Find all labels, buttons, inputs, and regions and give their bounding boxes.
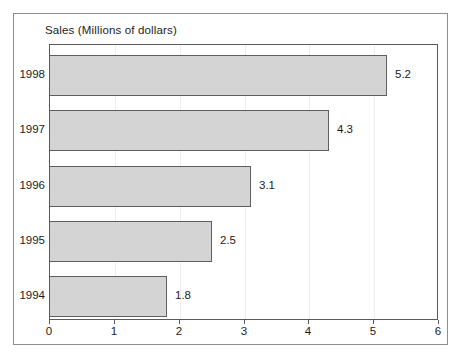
y-tick-label-1995: 1995 [5, 234, 45, 246]
y-tick-label-1998: 1998 [5, 68, 45, 80]
x-tick-mark-6 [438, 320, 439, 324]
bar-1995 [49, 221, 212, 262]
x-tick-label-1: 1 [111, 325, 117, 337]
chart-figure: Sales (Millions of dollars) 199819971996… [0, 0, 462, 364]
x-tick-mark-1 [114, 320, 115, 324]
x-tick-label-3: 3 [241, 325, 247, 337]
bar-1996 [49, 166, 251, 207]
chart-title: Sales (Millions of dollars) [45, 24, 177, 36]
x-tick-mark-4 [308, 320, 309, 324]
x-tick-label-4: 4 [305, 325, 311, 337]
bar-value-label-1996: 3.1 [259, 165, 275, 206]
bar-1998 [49, 55, 387, 96]
y-tick-label-1996: 1996 [5, 179, 45, 191]
x-tick-label-5: 5 [370, 325, 376, 337]
bar-value-label-1994: 1.8 [175, 275, 191, 316]
bar-1994 [49, 276, 167, 317]
y-tick-label-1997: 1997 [5, 123, 45, 135]
x-tick-label-6: 6 [435, 325, 441, 337]
x-tick-mark-2 [179, 320, 180, 324]
bar-value-label-1998: 5.2 [395, 54, 411, 95]
x-tick-mark-0 [49, 320, 50, 324]
x-tick-mark-3 [244, 320, 245, 324]
bar-value-label-1997: 4.3 [337, 109, 353, 150]
x-tick-mark-5 [373, 320, 374, 324]
bar-1997 [49, 110, 329, 151]
x-tick-label-0: 0 [46, 325, 52, 337]
bar-value-label-1995: 2.5 [220, 220, 236, 261]
x-tick-label-2: 2 [176, 325, 182, 337]
y-tick-label-1994: 1994 [5, 289, 45, 301]
plot-area [49, 44, 438, 320]
